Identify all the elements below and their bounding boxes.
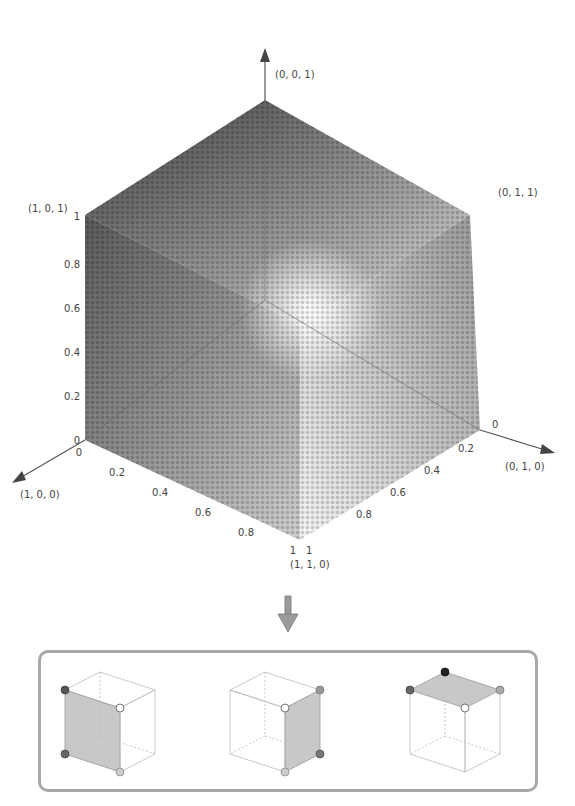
svg-text:0.8: 0.8 [238,527,254,538]
y-axis [480,430,545,450]
z-axis-label: (0, 0, 1) [275,69,315,80]
svg-text:0: 0 [492,419,498,430]
svg-text:0: 0 [74,435,80,446]
corner-label-top-left: (1, 0, 1) [28,203,68,214]
face-examples-panel [38,650,538,792]
svg-text:0.4: 0.4 [64,347,80,358]
svg-text:1: 1 [306,545,312,556]
corner-label-bottom-front: (1, 1, 0) [290,559,330,570]
svg-text:0.6: 0.6 [64,303,80,314]
x-axis-arrowhead-icon [12,471,26,483]
corner-label-top-right: (0, 1, 1) [498,187,538,198]
down-arrow-icon [278,596,298,632]
svg-text:0.4: 0.4 [424,465,440,476]
svg-text:0.8: 0.8 [64,259,80,270]
z-axis-arrowhead-icon [260,48,270,62]
svg-text:0.4: 0.4 [152,487,168,498]
x-axis-label: (1, 0, 0) [20,489,60,500]
svg-text:0.6: 0.6 [195,507,211,518]
y-axis-label: (0, 1, 0) [505,461,545,472]
vertical-ticks: 0 0.2 0.4 0.6 0.8 1 [64,211,80,446]
svg-text:0.2: 0.2 [109,467,125,478]
cube-diagram: (0, 0, 1) (1, 0, 0) (0, 1, 0) (1, 0, 1) … [0,0,575,640]
svg-text:1: 1 [290,545,296,556]
svg-text:0.2: 0.2 [458,443,474,454]
svg-text:0.8: 0.8 [356,509,372,520]
svg-text:1: 1 [74,211,80,222]
svg-text:0.2: 0.2 [64,391,80,402]
svg-text:0.6: 0.6 [390,487,406,498]
svg-text:0: 0 [76,447,82,458]
y-axis-arrowhead-icon [540,444,555,454]
